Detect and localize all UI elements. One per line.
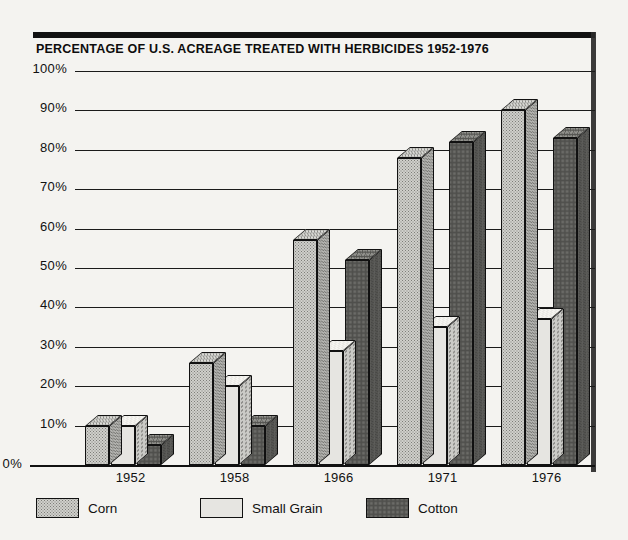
bar-group-1971 [397, 71, 486, 465]
plot-area: 0%10%20%30%40%50%60%70%80%90%100% [75, 71, 595, 465]
y-tick-label: 90% [40, 100, 67, 115]
x-axis-labels: 19521958196619711976 [75, 470, 595, 492]
y-tick-label: 40% [40, 297, 67, 312]
x-tick-label-1952: 1952 [116, 470, 146, 485]
y-tick-label: 70% [40, 179, 67, 194]
x-axis-baseline: 0% [30, 465, 595, 467]
y-tick-label: 30% [40, 336, 67, 351]
y-tick-label: 100% [33, 61, 67, 76]
bar-front-face [501, 110, 525, 465]
bar-side-face [239, 375, 252, 465]
legend-label: Small Grain [252, 501, 323, 516]
y-tick-label: 0% [3, 456, 22, 471]
y-tick-label: 80% [40, 139, 67, 154]
bar-side-face [421, 147, 434, 465]
bar-corn-1971 [397, 158, 421, 465]
y-tick-label: 50% [40, 258, 67, 273]
bar-group-1976 [501, 71, 590, 465]
y-tick-label: 10% [40, 415, 67, 430]
legend-item-corn[interactable]: Corn [36, 498, 117, 518]
legend-swatch-icon [366, 498, 409, 518]
bars-layer [75, 71, 595, 465]
legend-item-cotton[interactable]: Cotton [366, 498, 458, 518]
page-title: PERCENTAGE OF U.S. ACREAGE TREATED WITH … [36, 42, 489, 56]
bar-group-1966 [293, 71, 382, 465]
bar-corn-1976 [501, 110, 525, 465]
bar-group-1952 [85, 71, 174, 465]
bar-side-face [577, 127, 590, 465]
bar-front-face [85, 426, 109, 465]
bar-front-face [293, 240, 317, 465]
legend-swatch-icon [200, 498, 243, 518]
bar-corn-1952 [85, 426, 109, 465]
legend-label: Cotton [418, 501, 458, 516]
bar-front-face [189, 363, 213, 465]
legend-swatch-icon [36, 498, 79, 518]
chart-page: PERCENTAGE OF U.S. ACREAGE TREATED WITH … [0, 0, 628, 540]
x-tick-label-1971: 1971 [428, 470, 458, 485]
bar-side-face [213, 352, 226, 465]
bar-front-face [397, 158, 421, 465]
y-tick-label: 20% [40, 376, 67, 391]
legend-label: Corn [88, 501, 117, 516]
bar-side-face [447, 316, 460, 465]
bar-group-1958 [189, 71, 278, 465]
bar-side-face [369, 249, 382, 465]
bar-side-face [473, 131, 486, 465]
bar-side-face [525, 99, 538, 465]
bar-corn-1958 [189, 363, 213, 465]
bar-side-face [551, 308, 564, 465]
legend-item-small-grain[interactable]: Small Grain [200, 498, 323, 518]
bar-side-face [317, 229, 330, 465]
bar-corn-1966 [293, 240, 317, 465]
title-top-rule [33, 32, 595, 38]
x-tick-label-1958: 1958 [220, 470, 250, 485]
bar-side-face [343, 340, 356, 465]
x-tick-label-1976: 1976 [532, 470, 562, 485]
x-tick-label-1966: 1966 [324, 470, 354, 485]
y-tick-label: 60% [40, 218, 67, 233]
